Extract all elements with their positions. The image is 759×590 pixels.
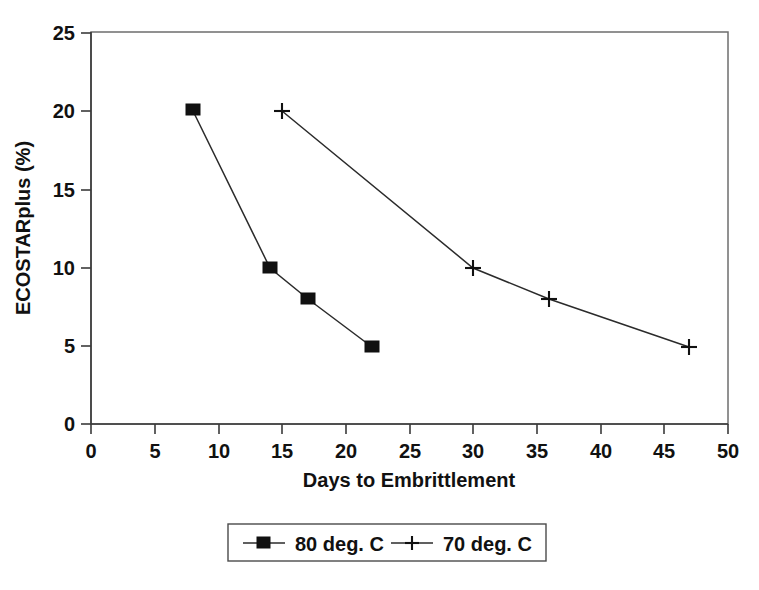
x-axis-ticks (91, 424, 728, 434)
data-point-marker (301, 293, 315, 304)
x-tick-label: 35 (526, 440, 548, 462)
x-tick-label: 50 (717, 440, 739, 462)
x-tick-label: 20 (335, 440, 357, 462)
y-tick-label: 0 (64, 413, 75, 435)
x-tick-label: 25 (399, 440, 421, 462)
y-tick-label: 10 (53, 257, 75, 279)
chart-legend: 80 deg. C 70 deg. C (228, 524, 546, 561)
data-point-marker (365, 341, 379, 352)
chart-figure: 0 5 10 15 20 25 30 35 40 45 50 0 5 10 15 (0, 0, 759, 590)
filled-square-icon (257, 537, 270, 548)
x-tick-label: 30 (462, 440, 484, 462)
x-tick-label: 5 (149, 440, 160, 462)
y-tick-label: 15 (53, 179, 75, 201)
legend-label: 80 deg. C (295, 533, 384, 555)
y-tick-label: 20 (53, 100, 75, 122)
line-chart: 0 5 10 15 20 25 30 35 40 45 50 0 5 10 15 (0, 0, 759, 590)
y-tick-label: 5 (64, 335, 75, 357)
x-tick-label: 45 (653, 440, 675, 462)
y-axis-tick-labels: 0 5 10 15 20 25 (53, 22, 75, 435)
x-tick-label: 10 (208, 440, 230, 462)
plot-frame (91, 32, 728, 424)
data-point-marker (263, 262, 277, 273)
x-axis-tick-labels: 0 5 10 15 20 25 30 35 40 45 50 (85, 440, 739, 462)
y-axis-ticks (81, 33, 91, 424)
x-tick-label: 15 (271, 440, 293, 462)
y-axis-title: ECOSTARplus (%) (12, 141, 34, 315)
x-tick-label: 40 (590, 440, 612, 462)
x-axis-title: Days to Embrittlement (303, 469, 516, 491)
data-point-marker (186, 104, 200, 115)
y-tick-label: 25 (53, 22, 75, 44)
legend-label: 70 deg. C (443, 533, 532, 555)
x-tick-label: 0 (85, 440, 96, 462)
